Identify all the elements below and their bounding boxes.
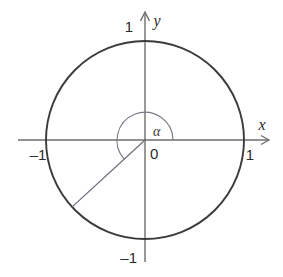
x-axis <box>18 136 269 145</box>
angle-alpha-label: α <box>153 124 161 139</box>
x-axis-name-label: x <box>257 116 265 133</box>
origin-label: 0 <box>150 145 158 162</box>
y-axis-name-label: y <box>151 12 161 30</box>
x-tick-positive-label: 1 <box>246 146 254 163</box>
y-axis <box>141 12 150 262</box>
y-tick-positive-label: 1 <box>125 18 133 35</box>
unit-circle-svg: 1 –1 –1 1 x y α 0 <box>0 0 283 277</box>
x-tick-negative-label: –1 <box>30 146 47 163</box>
terminal-ray <box>72 140 145 207</box>
y-tick-negative-label: –1 <box>120 249 137 266</box>
unit-circle-figure: 1 –1 –1 1 x y α 0 <box>0 0 283 277</box>
